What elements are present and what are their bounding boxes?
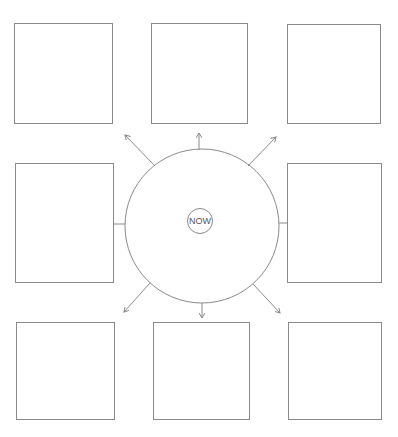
arrow-south-east <box>253 284 280 313</box>
arrow-north-east <box>248 137 276 166</box>
arrow-north-west <box>125 135 155 166</box>
arrow-south-west <box>124 283 150 312</box>
now-label: NOW <box>187 208 213 234</box>
